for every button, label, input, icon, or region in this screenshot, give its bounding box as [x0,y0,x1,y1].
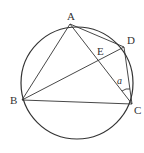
label-e: E [97,45,104,57]
geometry-diagram: A B C D E a [0,0,144,153]
angle-arc-a [122,89,130,91]
segment-ac [70,24,132,104]
label-angle-a: a [117,75,122,86]
label-c: C [134,104,141,116]
label-b: B [10,94,17,106]
label-d: D [127,34,135,46]
segment-bc [22,100,132,104]
segment-ab [22,24,70,100]
diagram-canvas: A B C D E a [0,0,144,153]
segment-ad [70,24,124,47]
label-a: A [67,10,75,22]
